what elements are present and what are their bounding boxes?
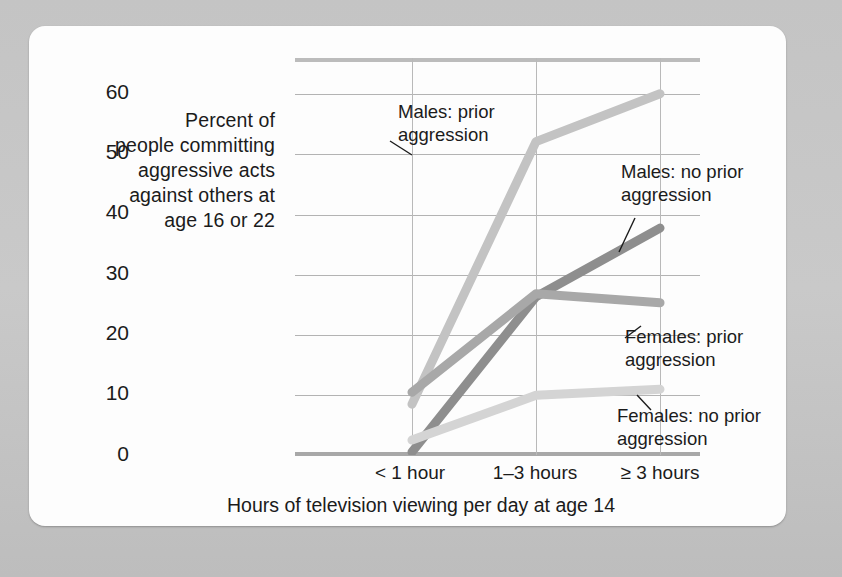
y-tick-40: 40 <box>69 200 129 224</box>
y-tick-0: 0 <box>69 442 129 466</box>
y-tick-20: 20 <box>69 321 129 345</box>
annotation-males-no-prior: Males: no prior aggression <box>621 160 743 206</box>
y-tick-30: 30 <box>69 261 129 285</box>
chart-series-svg <box>295 58 700 455</box>
annotation-females-prior: Females: prior aggression <box>625 325 743 371</box>
series-line-females-prior-aggression <box>412 294 660 393</box>
y-tick-50: 50 <box>69 140 129 164</box>
x-tick-3-plus-hours: ≥ 3 hours <box>580 462 740 484</box>
y-tick-60: 60 <box>69 80 129 104</box>
plot-area <box>295 58 700 455</box>
annotation-females-no-prior: Females: no prior aggression <box>617 404 761 450</box>
chart-figure: Percent of people committing aggressive … <box>0 0 842 577</box>
x-axis-title: Hours of television viewing per day at a… <box>0 494 842 517</box>
y-tick-10: 10 <box>69 381 129 405</box>
annotation-males-prior: Males: prior aggression <box>398 100 495 146</box>
